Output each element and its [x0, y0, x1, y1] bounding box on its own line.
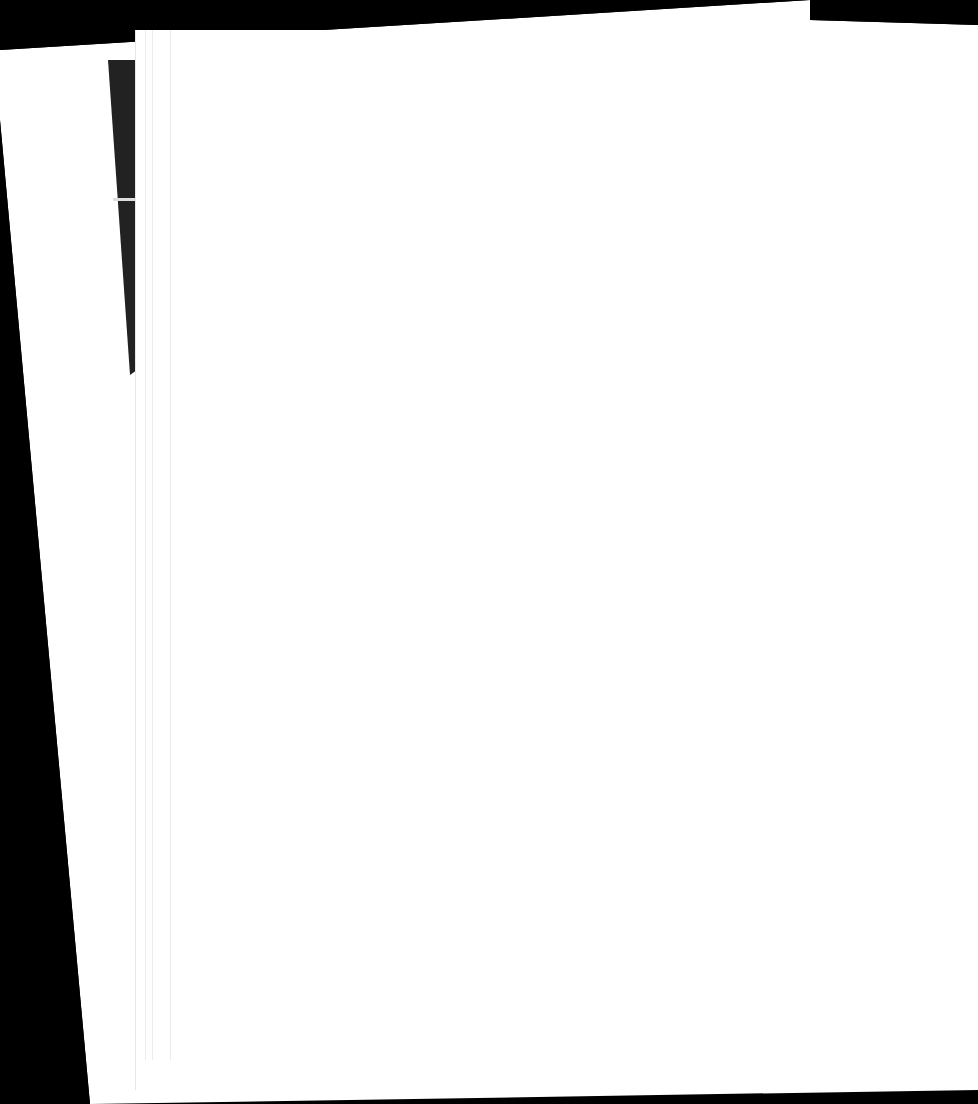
paper-edge — [152, 30, 153, 1060]
paper-edge — [170, 30, 171, 1060]
paper-edge — [145, 30, 146, 1060]
front-paper-sheet — [135, 30, 948, 1090]
